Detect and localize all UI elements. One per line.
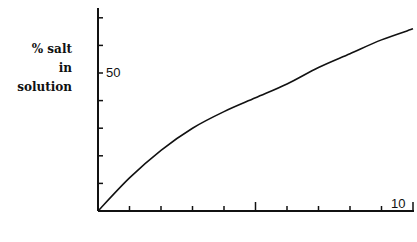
x-tick-label-10: 10 [391,196,405,211]
salt-curve [98,29,413,211]
y-tick-label-50: 50 [106,65,120,80]
chart-plot [0,0,417,242]
